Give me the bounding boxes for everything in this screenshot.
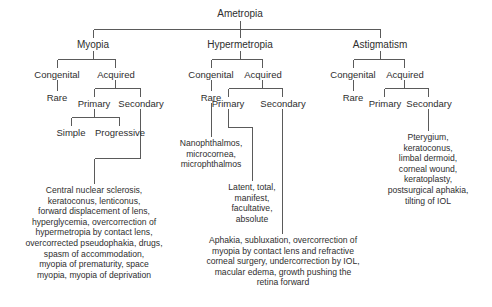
node-hypermetropia-primary: Primary [212, 98, 245, 109]
node-myopia-congenital: Congenital [34, 69, 79, 80]
leaf-hypermetropia-primary-types: Latent, total, manifest, facultative, ab… [212, 182, 292, 224]
node-hypermetropia-congenital: Congenital [188, 69, 233, 80]
node-hypermetropia: Hypermetropia [207, 39, 273, 50]
leaf-astigmatism-secondary-causes: Pterygium, keratoconus, limbal dermoid, … [368, 132, 488, 206]
ametropia-classification-diagram: Ametropia Myopia Hypermetropia Astigmati… [0, 0, 492, 307]
node-hypermetropia-acquired: Acquired [244, 69, 282, 80]
node-astigmatism: Astigmatism [353, 39, 407, 50]
node-ametropia: Ametropia [217, 8, 263, 19]
node-myopia-primary: Primary [78, 98, 111, 109]
node-myopia: Myopia [77, 39, 109, 50]
node-hypermetropia-secondary: Secondary [260, 98, 305, 109]
node-astigmatism-rare: Rare [343, 92, 364, 103]
node-astigmatism-primary: Primary [369, 98, 402, 109]
node-myopia-secondary: Secondary [118, 98, 163, 109]
node-astigmatism-congenital: Congenital [330, 69, 375, 80]
leaf-hypermetropia-rare-causes: Nanophthalmos, microcornea, microphthalm… [161, 138, 261, 170]
node-myopia-simple: Simple [56, 127, 85, 138]
leaf-myopia-secondary-causes: Central nuclear sclerosis, keratoconus, … [0, 185, 194, 280]
node-astigmatism-acquired: Acquired [386, 69, 424, 80]
node-myopia-acquired: Acquired [97, 69, 135, 80]
node-astigmatism-secondary: Secondary [406, 98, 451, 109]
leaf-hypermetropia-secondary-causes: Aphakia, subluxation, overcorrection of … [177, 235, 389, 288]
node-myopia-progressive: Progressive [95, 127, 145, 138]
node-myopia-rare: Rare [47, 92, 68, 103]
